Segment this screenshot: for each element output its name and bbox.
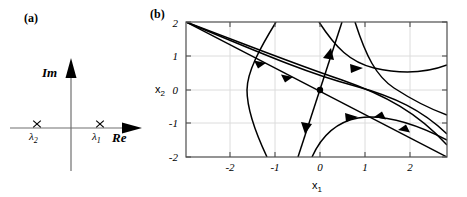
lambda-2-label: λ2 <box>29 131 38 145</box>
y-axis-label: x2 <box>155 84 165 98</box>
hyperbola-upper-middle-branch <box>319 22 447 72</box>
lambda-1-subscript: 1 <box>97 136 101 145</box>
ytick-label-neg2: -2 <box>162 152 178 163</box>
x-axis-label-subscript: 1 <box>318 185 322 194</box>
lambda-2-subscript: 2 <box>34 136 38 145</box>
figure-container: (a) Im Re λ2 λ1 <box>0 0 467 197</box>
xtick-label-neg2: -2 <box>222 162 238 173</box>
lambda-2-cross-icon <box>33 121 41 128</box>
arrow-stable-lower-1 <box>374 112 386 120</box>
xtick-label-0: 0 <box>312 162 328 173</box>
arrow-stable-lower-2 <box>398 125 410 133</box>
saddle-point-marker <box>317 87 323 93</box>
xtick-label-2: 2 <box>402 162 418 173</box>
imaginary-axis-label: Im <box>42 66 57 79</box>
real-axis-label: Re <box>112 131 126 144</box>
ytick-label-1: 1 <box>162 51 178 62</box>
flow-direction-arrows <box>254 48 410 134</box>
panel-b-phase-portrait <box>150 0 467 197</box>
ytick-label-neg1: -1 <box>162 118 178 129</box>
panel-b-svg <box>150 0 467 197</box>
x-axis-label: x1 <box>312 180 322 194</box>
arrow-upper-curve <box>350 64 363 73</box>
imaginary-axis-arrowhead <box>66 58 77 78</box>
lambda-1-cross-icon <box>96 121 104 128</box>
hyperbola-upper-inner <box>186 22 447 145</box>
xtick-label-neg1: -1 <box>267 162 283 173</box>
arrow-bottom-curve <box>345 113 358 122</box>
ytick-label-2: 2 <box>162 18 178 29</box>
xtick-label-1: 1 <box>357 162 373 173</box>
lambda-1-label: λ1 <box>92 131 101 145</box>
hyperbola-upper-outer <box>186 22 447 134</box>
panel-a-svg <box>0 0 150 197</box>
panel-a-complex-plane: (a) Im Re λ2 λ1 <box>0 0 150 197</box>
y-axis-label-subscript: 2 <box>161 89 165 98</box>
